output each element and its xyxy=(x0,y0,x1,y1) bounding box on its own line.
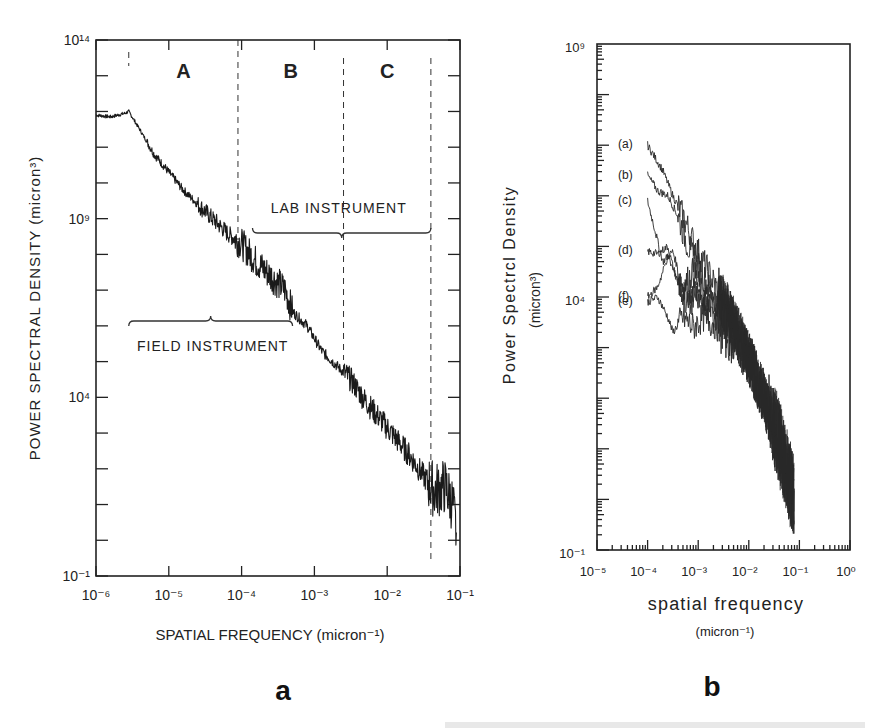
curve-label: (f) xyxy=(618,289,629,303)
y-tick-label: 10⁴ xyxy=(565,293,585,308)
x-tick-label: 10⁻¹ xyxy=(783,564,809,579)
region-label-b: B xyxy=(284,60,298,82)
panel-a-plot-frame xyxy=(96,40,460,576)
spectrum-line xyxy=(96,110,456,545)
x-tick-label: 10⁻⁵ xyxy=(580,564,607,579)
panel-a-letter: a xyxy=(275,675,291,706)
panel-a-spectrum-trace xyxy=(96,110,456,545)
field-instrument-brace xyxy=(129,316,293,326)
y-tick-label: 10⁻¹ xyxy=(559,546,585,561)
curve-label: (d) xyxy=(618,243,633,257)
panel-b-y-tick-labels: 10⁹10⁴10⁻¹ xyxy=(559,40,585,561)
panel-b-x-axis-title: spatial frequency xyxy=(648,594,804,614)
panel-b-x-ticks xyxy=(597,540,850,550)
caption-cutoff xyxy=(445,722,865,728)
x-tick-label: 10⁻² xyxy=(732,564,758,579)
y-tick-label: 10⁹ xyxy=(68,211,90,227)
panel-b-curve-labels: (a)(b)(c)(d)(e)(f) xyxy=(618,137,633,308)
x-tick-label: 10⁰ xyxy=(836,564,856,579)
lab-instrument-label: LAB INSTRUMENT xyxy=(271,200,407,216)
y-tick-label: 10¹⁴ xyxy=(64,32,90,48)
field-instrument-label: FIELD INSTRUMENT xyxy=(137,338,288,354)
x-tick-label: 10⁻⁴ xyxy=(227,587,256,603)
x-tick-label: 10⁻⁶ xyxy=(82,587,111,603)
x-tick-label: 10⁻⁵ xyxy=(154,587,183,603)
panel-b-y-ticks xyxy=(597,46,609,550)
panel-a-region-labels: ABC xyxy=(176,60,394,82)
trace-c xyxy=(648,198,794,529)
figure-canvas: ABC LAB INSTRUMENTFIELD INSTRUMENT 10¹⁴1… xyxy=(0,0,880,728)
y-tick-label: 10⁻¹ xyxy=(62,568,90,584)
panel-a-y-ticks xyxy=(96,40,460,576)
y-tick-label: 10⁹ xyxy=(565,40,585,55)
region-label-c: C xyxy=(380,60,394,82)
panel-a-region-dividers xyxy=(129,40,431,560)
y-tick-label: 10⁴ xyxy=(68,389,90,405)
curve-label: (a) xyxy=(618,137,633,151)
lab-instrument-brace xyxy=(253,228,431,238)
panel-b-x-tick-labels: 10⁻⁵10⁻⁴10⁻³10⁻²10⁻¹10⁰ xyxy=(580,564,856,579)
panel-b-y-axis-units: (micron³) xyxy=(527,272,543,328)
panel-b-chart: (a)(b)(c)(d)(e)(f) 10⁹10⁴10⁻¹ 10⁻⁵10⁻⁴10… xyxy=(501,40,856,702)
region-label-a: A xyxy=(176,60,190,82)
panel-b-x-axis-units: (micron⁻¹) xyxy=(696,624,755,639)
panel-a-y-axis-title: POWER SPECTRAL DENSITY (micron³) xyxy=(26,156,43,461)
panel-a-x-axis-title: SPATIAL FREQUENCY (micron⁻¹) xyxy=(155,626,384,643)
panel-a-chart: ABC LAB INSTRUMENTFIELD INSTRUMENT 10¹⁴1… xyxy=(26,32,474,706)
panel-a-x-tick-labels: 10⁻⁶10⁻⁵10⁻⁴10⁻³10⁻²10⁻¹ xyxy=(82,587,475,603)
panel-b-spectrum-traces xyxy=(648,141,795,534)
x-tick-label: 10⁻² xyxy=(373,587,401,603)
x-tick-label: 10⁻³ xyxy=(681,564,707,579)
panel-a-y-tick-labels: 10¹⁴10⁹10⁴10⁻¹ xyxy=(62,32,90,584)
panel-a-x-ticks xyxy=(96,40,460,576)
panel-b-y-axis-title: Power Spectrcl Density xyxy=(501,186,518,384)
x-tick-label: 10⁻⁴ xyxy=(630,564,657,579)
curve-label: (b) xyxy=(618,168,633,182)
curve-label: (c) xyxy=(618,193,632,207)
x-tick-label: 10⁻¹ xyxy=(446,587,474,603)
x-tick-label: 10⁻³ xyxy=(301,587,329,603)
panel-b-letter: b xyxy=(703,671,720,702)
